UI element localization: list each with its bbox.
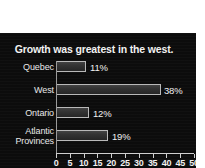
chart-canvas: Growth was greatest in the west. Quebec … — [0, 0, 205, 168]
category-label-west: West — [0, 85, 54, 95]
category-label-atlantic-provinces: Atlantic Provinces — [0, 126, 54, 146]
x-tick-label: 20 — [106, 158, 115, 168]
bar-value-quebec: 11% — [90, 62, 108, 73]
bar-atlantic-provinces[interactable] — [56, 130, 108, 141]
x-tick-label: 25 — [120, 158, 129, 168]
chart-panel: Growth was greatest in the west. Quebec … — [0, 33, 196, 168]
x-tick-label: 50 — [189, 158, 196, 168]
bar-west[interactable] — [56, 84, 161, 95]
x-tick-label: 10 — [79, 158, 88, 168]
bar-ontario[interactable] — [56, 107, 89, 118]
x-tick-label: 30 — [134, 158, 143, 168]
bar-value-west: 38% — [164, 85, 182, 96]
x-tick-label: 35 — [148, 158, 157, 168]
bar-value-atlantic-provinces: 19% — [112, 131, 130, 142]
y-axis-line — [56, 61, 57, 154]
category-label-ontario: Ontario — [0, 108, 54, 118]
bar-value-ontario: 12% — [93, 108, 111, 119]
x-tick-label: 15 — [93, 158, 102, 168]
plot-area: Quebec 11% West 38% Ontario 12% Atlantic… — [0, 61, 196, 168]
x-tick-label: 5 — [67, 158, 72, 168]
x-tick-label: 45 — [175, 158, 184, 168]
x-tick-label: 0 — [54, 158, 59, 168]
x-tick-label: 40 — [162, 158, 171, 168]
chart-title: Growth was greatest in the west. — [0, 43, 188, 55]
bar-quebec[interactable] — [56, 61, 86, 72]
category-label-quebec: Quebec — [0, 62, 54, 72]
